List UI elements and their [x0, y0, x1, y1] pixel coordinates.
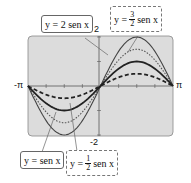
eq-text: sen x — [137, 14, 158, 25]
fraction: 32 — [129, 11, 135, 28]
eq-text: y = 2 sen x — [45, 19, 89, 30]
denominator: 2 — [130, 20, 134, 28]
denominator: 2 — [86, 164, 90, 172]
label-y-1-2sinx: y = 12 sen x — [66, 150, 118, 176]
label-y-3-2sinx: y = 32 sen x — [110, 6, 162, 32]
eq-text: y = sen x — [24, 155, 60, 166]
label-y-sinx: y = sen x — [20, 151, 64, 169]
label-y-2sinx: y = 2 sen x — [41, 15, 93, 33]
y-max-label: 2 — [94, 24, 99, 34]
x-min-label: -π — [14, 80, 23, 90]
eq-text: sen x — [93, 158, 114, 169]
y-min-label: -2 — [90, 137, 98, 147]
fraction: 12 — [85, 155, 91, 172]
x-max-label: π — [176, 80, 182, 90]
eq-text: y = — [70, 158, 83, 169]
eq-text: y = — [114, 14, 127, 25]
